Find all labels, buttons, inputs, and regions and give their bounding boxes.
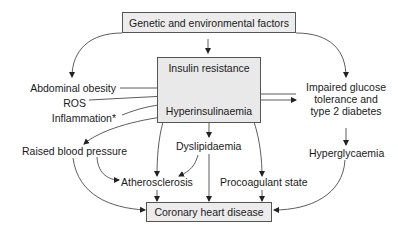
igt-type2-diabetes-label: Impaired glucose tolerance and type 2 di… xyxy=(296,81,396,117)
genetic-environmental-label: Genetic and environmental factors xyxy=(122,17,296,29)
igt-line-1: Impaired glucose xyxy=(296,81,396,93)
ros-label: ROS xyxy=(63,97,86,109)
insulin-resistance-label: Insulin resistance xyxy=(157,62,261,74)
hyperinsulinaemia-label: Hyperinsulinaemia xyxy=(157,105,261,117)
igt-line-2: tolerance and xyxy=(296,93,396,105)
inflammation-label: Inflammation* xyxy=(52,112,116,124)
igt-line-3: type 2 diabetes xyxy=(296,105,396,117)
arrow-central-to-procoag xyxy=(254,122,262,176)
arrow-dyslip-to-athero xyxy=(179,155,198,176)
coronary-heart-disease-label: Coronary heart disease xyxy=(146,206,272,218)
atherosclerosis-label: Atherosclerosis xyxy=(121,176,193,188)
arrow-bp-to-athero xyxy=(97,157,119,180)
arrow-central-to-athero xyxy=(157,122,163,176)
procoagulant-state-label: Procoagulant state xyxy=(220,176,308,188)
raised-blood-pressure-label: Raised blood pressure xyxy=(22,145,127,157)
dyslipidaemia-label: Dyslipidaemia xyxy=(176,140,241,152)
arrow-factors-to-igt xyxy=(296,33,346,77)
arrow-ros-to-central xyxy=(89,96,166,100)
abdominal-obesity-label: Abdominal obesity xyxy=(30,82,116,94)
arrow-factors-to-obesity xyxy=(72,33,122,77)
hyperglycaemia-label: Hyperglycaemia xyxy=(309,147,384,159)
